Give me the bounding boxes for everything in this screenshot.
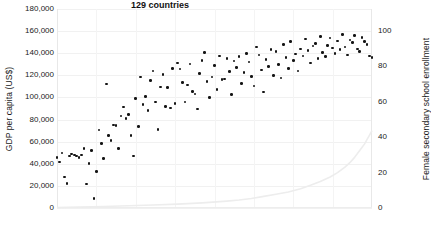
scatter-point <box>353 34 356 37</box>
scatter-point <box>166 86 169 89</box>
scatter-point <box>294 53 297 56</box>
scatter-point <box>262 91 265 94</box>
scatter-point <box>258 54 261 57</box>
scatter-point <box>171 67 174 70</box>
scatter-point <box>179 68 182 71</box>
y-axis-left-tick-label: 20,000 <box>30 182 54 190</box>
scatter-point <box>137 125 140 128</box>
scatter-point <box>122 106 125 109</box>
scatter-point <box>130 134 133 137</box>
y-axis-left-tick-label: 120,000 <box>25 71 54 79</box>
scatter-point <box>93 197 96 200</box>
y-axis-right-tick-label: 60 <box>378 98 387 106</box>
scatter-point <box>250 75 253 78</box>
scatter-point <box>331 47 334 50</box>
scatter-point <box>181 81 184 84</box>
y-axis-left-tick-label: 60,000 <box>30 138 54 146</box>
scatter-point <box>164 105 167 108</box>
scatter-point <box>235 66 238 69</box>
scatter-point <box>174 102 177 105</box>
scatter-point <box>196 108 199 111</box>
scatter-point <box>324 55 327 58</box>
scatter-point <box>302 55 305 58</box>
scatter-point <box>307 49 310 52</box>
scatter-point <box>176 62 179 65</box>
scatter-point <box>267 65 270 68</box>
scatter-point <box>371 56 374 59</box>
y-axis-left-tick-label: 40,000 <box>30 160 54 168</box>
plot-area <box>57 9 372 208</box>
scatter-point <box>203 51 206 54</box>
y-axis-right-tick-label: 80 <box>378 62 387 70</box>
scatter-point <box>344 46 347 49</box>
y-axis-left-tick-label: 180,000 <box>25 5 54 13</box>
scatter-point <box>186 84 189 87</box>
scatter-point <box>149 79 152 82</box>
scatter-point <box>341 33 344 36</box>
y-axis-left-tick-label: 0 <box>50 204 54 212</box>
scatter-point <box>83 147 86 150</box>
scatter-point <box>329 37 332 40</box>
scatter-point <box>240 82 243 85</box>
scatter-point <box>275 50 278 53</box>
scatter-point <box>191 90 194 93</box>
scatter-point <box>80 154 83 157</box>
scatter-point <box>339 48 342 51</box>
scatter-point <box>127 113 130 116</box>
scatter-point <box>218 55 221 58</box>
scatter-point <box>152 70 155 73</box>
scatter-point <box>297 70 300 73</box>
scatter-point <box>100 142 103 145</box>
scatter-point <box>144 95 147 98</box>
scatter-point <box>189 63 192 66</box>
scatter-point <box>115 124 118 127</box>
scatter-point <box>289 40 292 43</box>
gridline-horizontal <box>57 208 372 209</box>
scatter-point <box>125 117 128 120</box>
y-axis-right-tick-label: 40 <box>378 133 387 141</box>
scatter-point <box>228 70 231 73</box>
scatter-point <box>245 52 248 55</box>
scatter-point <box>317 57 320 60</box>
scatter-point <box>184 101 187 104</box>
scatter-point <box>230 93 233 96</box>
scatter-point <box>319 35 322 38</box>
scatter-point <box>107 134 110 137</box>
scatter-point <box>61 152 64 155</box>
scatter-point <box>265 58 268 61</box>
scatter-point <box>358 50 361 53</box>
scatter-point <box>98 129 101 132</box>
scatter-point <box>346 54 349 57</box>
scatter-point <box>208 96 211 99</box>
scatter-point <box>201 59 204 62</box>
scatter-point <box>90 149 93 152</box>
y-axis-right-title: Female secondary school enrollment <box>421 34 431 184</box>
scatter-point <box>314 42 317 45</box>
scatter-point <box>147 109 150 112</box>
scatter-point <box>211 76 214 79</box>
scatter-point <box>351 41 354 44</box>
scatter-point <box>194 93 197 96</box>
scatter-point <box>88 162 91 165</box>
scatter-point <box>304 38 307 41</box>
scatter-point <box>299 48 302 51</box>
scatter-point <box>95 170 98 173</box>
scatter-point <box>272 74 275 77</box>
scatter-point <box>285 56 288 59</box>
scatter-point <box>159 86 162 89</box>
scatter-point <box>213 64 216 67</box>
scatter-point <box>157 128 160 131</box>
scatter-point <box>66 182 69 185</box>
scatter-point <box>105 83 108 86</box>
scatter-point <box>78 156 81 159</box>
scatter-point <box>169 107 172 110</box>
scatter-point <box>312 45 315 48</box>
scatter-point <box>120 115 123 118</box>
scatter-point <box>132 155 135 158</box>
scatter-point <box>58 161 61 164</box>
scatter-point <box>366 43 369 46</box>
scatter-point <box>56 156 59 159</box>
scatter-point <box>280 77 283 80</box>
y-axis-left-tick-label: 160,000 <box>25 27 54 35</box>
